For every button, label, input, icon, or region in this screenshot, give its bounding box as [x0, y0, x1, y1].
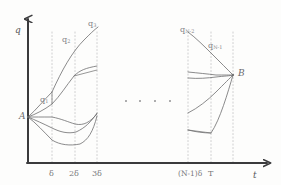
node-marker-B — [232, 74, 234, 76]
ellipsis-dot-group — [125, 100, 171, 102]
trajectory-R3 — [188, 75, 233, 78]
x-axis-label: t — [253, 171, 257, 180]
sketch-canvas — [0, 0, 281, 185]
tick-label-3: (N-1)δ — [178, 170, 202, 178]
trajectory-R5 — [188, 75, 233, 133]
tick-label-1: 2δ — [69, 170, 79, 178]
ellipsis-dot-1 — [125, 100, 127, 102]
ellipsis-dot-4 — [169, 100, 171, 102]
tick-label-4: T — [208, 170, 213, 178]
gridline-group — [52, 32, 233, 163]
path-label-q2: q2 — [62, 36, 70, 44]
figure-root: qδ2δ3δ(N-1)δTtq1q2q3qN-2qN-1AB — [0, 0, 281, 185]
ellipsis-dot-2 — [139, 100, 141, 102]
node-marker-A — [27, 116, 29, 118]
trajectory-R2 — [188, 72, 233, 75]
y-axis-label: q — [15, 26, 21, 35]
trajectory-R4 — [188, 75, 233, 113]
trajectory-L5 — [28, 116, 97, 145]
left-trajectory-group — [28, 27, 98, 145]
node-label-A: A — [19, 112, 26, 121]
tick-label-2: 3δ — [92, 170, 102, 178]
node-label-B: B — [238, 69, 245, 78]
trajectory-L3 — [28, 114, 97, 125]
trajectory-L2 — [28, 66, 97, 117]
path-label-qN1: qN-1 — [208, 42, 222, 50]
tick-label-0: δ — [49, 170, 54, 178]
path-label-q3: q3 — [88, 20, 96, 28]
trajectory-R1 — [188, 32, 233, 75]
ellipsis-dot-3 — [154, 100, 156, 102]
path-label-q1: q1 — [40, 96, 48, 104]
path-label-qN2: qN-2 — [180, 26, 194, 34]
